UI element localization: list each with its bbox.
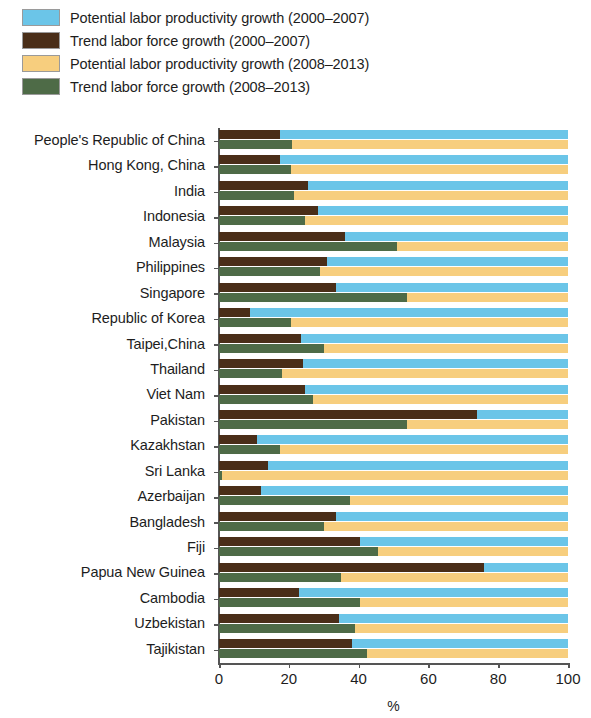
x-axis-title: %: [219, 698, 568, 714]
legend-item[interactable]: Trend labor force growth (2000–2007): [22, 29, 542, 52]
stacked-bar: [219, 410, 568, 419]
bar-segment-labor-force: [219, 512, 336, 521]
bar-segment-productivity: [355, 624, 568, 633]
legend-item[interactable]: Potential labor productivity growth (200…: [22, 52, 542, 75]
y-axis-tick-label: Cambodia: [0, 586, 213, 611]
bar-segment-labor-force: [219, 522, 324, 531]
bar-segment-productivity: [345, 232, 568, 241]
stacked-bar: [219, 639, 568, 648]
bar-segment-productivity: [350, 496, 568, 505]
bar-segment-labor-force: [219, 369, 282, 378]
bar-segment-labor-force: [219, 410, 477, 419]
bar-segment-labor-force: [219, 624, 355, 633]
stacked-bar: [219, 537, 568, 546]
table-row: [219, 586, 568, 611]
y-axis-tick-label: Thailand: [0, 357, 213, 382]
chart-container: Potential labor productivity growth (200…: [0, 0, 591, 718]
stacked-bar: [219, 216, 568, 225]
legend-item[interactable]: Potential labor productivity growth (200…: [22, 6, 542, 29]
table-row: [219, 561, 568, 586]
table-row: [219, 153, 568, 178]
bar-segment-productivity: [305, 216, 568, 225]
y-axis-tick-label: Viet Nam: [0, 382, 213, 407]
legend-item-label: Potential labor productivity growth (200…: [70, 56, 369, 72]
stacked-bar: [219, 191, 568, 200]
bar-segment-labor-force: [219, 165, 291, 174]
bar-segment-productivity: [407, 420, 568, 429]
bar-segment-productivity: [484, 563, 568, 572]
bar-segment-productivity: [305, 385, 568, 394]
bar-segment-productivity: [294, 191, 568, 200]
y-axis-tick-label: Sri Lanka: [0, 459, 213, 484]
table-row: [219, 408, 568, 433]
bar-segment-productivity: [407, 293, 568, 302]
stacked-bar: [219, 624, 568, 633]
x-axis-tick: [498, 663, 500, 668]
legend-swatch: [22, 9, 60, 26]
table-row: [219, 433, 568, 458]
stacked-bar: [219, 165, 568, 174]
bar-segment-labor-force: [219, 344, 324, 353]
stacked-bar: [219, 308, 568, 317]
stacked-bar: [219, 563, 568, 572]
bar-segment-labor-force: [219, 420, 407, 429]
legend-swatch: [22, 78, 60, 95]
y-axis-tick-label: Fiji: [0, 535, 213, 560]
y-axis-tick-label: Papua New Guinea: [0, 560, 213, 585]
bar-segment-productivity: [378, 547, 568, 556]
x-axis-tick-label: 20: [280, 670, 297, 687]
bar-segment-labor-force: [219, 496, 350, 505]
stacked-bar: [219, 206, 568, 215]
bar-segment-productivity: [367, 649, 568, 658]
bar-segment-labor-force: [219, 461, 268, 470]
chart-legend: Potential labor productivity growth (200…: [22, 6, 542, 98]
bar-segment-productivity: [250, 308, 568, 317]
table-row: [219, 230, 568, 255]
legend-item-label: Potential labor productivity growth (200…: [70, 10, 369, 26]
bar-segment-productivity: [222, 471, 568, 480]
x-axis-tick-label: 80: [490, 670, 507, 687]
y-axis-tick-label: Hong Kong, China: [0, 153, 213, 178]
bar-segment-labor-force: [219, 435, 257, 444]
bar-segment-labor-force: [219, 588, 299, 597]
table-row: [219, 179, 568, 204]
stacked-bar: [219, 257, 568, 266]
bar-segment-productivity: [280, 155, 568, 164]
bar-segment-productivity: [280, 130, 568, 139]
y-axis-tick-label: Indonesia: [0, 204, 213, 229]
y-axis-tick-label: Tajikistan: [0, 637, 213, 662]
table-row: [219, 637, 568, 662]
bar-segment-labor-force: [219, 191, 294, 200]
bar-segment-labor-force: [219, 130, 280, 139]
bar-segment-labor-force: [219, 242, 397, 251]
stacked-bar: [219, 293, 568, 302]
stacked-bar: [219, 435, 568, 444]
bar-segment-labor-force: [219, 216, 305, 225]
bar-segment-productivity: [352, 639, 568, 648]
bar-segment-productivity: [303, 359, 568, 368]
bar-segment-labor-force: [219, 232, 345, 241]
stacked-bar: [219, 385, 568, 394]
bar-segment-productivity: [280, 445, 568, 454]
stacked-bar: [219, 359, 568, 368]
x-axis-tick: [428, 663, 430, 668]
bar-segment-labor-force: [219, 181, 308, 190]
bar-segment-productivity: [257, 435, 568, 444]
stacked-bar: [219, 573, 568, 582]
y-axis-tick-label: People's Republic of China: [0, 128, 213, 153]
stacked-bar: [219, 395, 568, 404]
legend-swatch: [22, 55, 60, 72]
y-axis-tick-label: Taipei,China: [0, 332, 213, 357]
table-row: [219, 204, 568, 229]
bar-segment-labor-force: [219, 614, 339, 623]
y-axis-tick-label: India: [0, 179, 213, 204]
stacked-bar: [219, 344, 568, 353]
bars-panel: [219, 128, 568, 663]
bar-segment-labor-force: [219, 267, 320, 276]
bar-segment-labor-force: [219, 257, 327, 266]
stacked-bar: [219, 471, 568, 480]
bar-segment-productivity: [261, 486, 568, 495]
bar-segment-productivity: [324, 522, 568, 531]
y-axis-tick-label: Azerbaijan: [0, 484, 213, 509]
legend-item[interactable]: Trend labor force growth (2008–2013): [22, 75, 542, 98]
